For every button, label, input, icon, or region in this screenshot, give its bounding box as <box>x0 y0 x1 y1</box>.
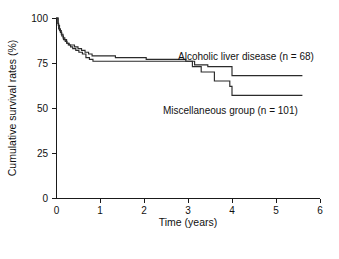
x-tick-marks <box>100 199 320 203</box>
survival-curve-alcoholic-liver-disease <box>56 18 302 76</box>
series-annotation-alcoholic-liver-disease: Alcoholic liver disease (n = 68) <box>178 51 314 62</box>
chart-canvas: 0255075100 0123456 Alcoholic liver disea… <box>0 0 339 259</box>
x-tick-label-2: 2 <box>141 205 147 216</box>
y-axis-title: Cumulative survival rates (%) <box>6 40 18 177</box>
y-tick-label-75: 75 <box>37 58 49 69</box>
y-tick-label-100: 100 <box>31 13 48 24</box>
y-axis-group: 0255075100 <box>31 13 56 204</box>
x-tick-labels: 0123456 <box>54 205 324 216</box>
y-tick-label-50: 50 <box>37 103 49 114</box>
y-tick-marks <box>52 19 57 199</box>
x-axis-group: 0123456 <box>54 199 324 216</box>
x-tick-label-5: 5 <box>273 205 279 216</box>
x-tick-label-6: 6 <box>317 205 323 216</box>
y-tick-labels: 0255075100 <box>31 13 48 204</box>
x-tick-label-0: 0 <box>54 205 60 216</box>
series-annotation-miscellaneous-group: Miscellaneous group (n = 101) <box>163 105 298 116</box>
y-tick-label-0: 0 <box>42 193 48 204</box>
x-tick-label-1: 1 <box>97 205 103 216</box>
x-tick-label-4: 4 <box>229 205 235 216</box>
x-tick-label-3: 3 <box>185 205 191 216</box>
x-axis-title: Time (years) <box>159 216 218 228</box>
km-survival-chart: 0255075100 0123456 Alcoholic liver disea… <box>0 0 339 259</box>
y-tick-label-25: 25 <box>37 148 49 159</box>
